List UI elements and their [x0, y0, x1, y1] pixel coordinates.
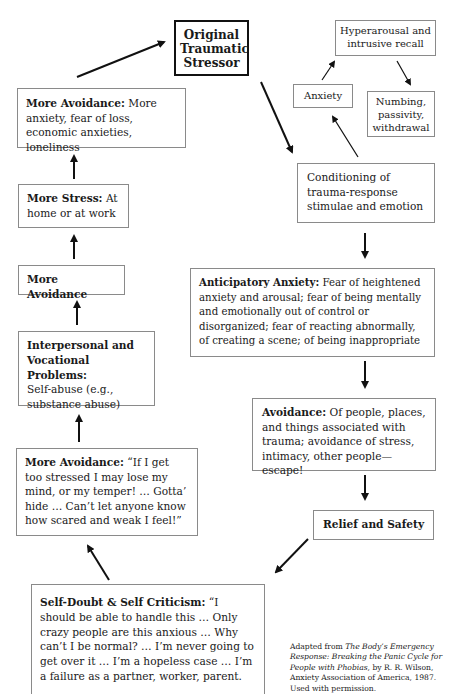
node-text: Anxiety	[304, 90, 342, 101]
citation: Adapted from The Body’s Emergency Respon…	[290, 642, 452, 694]
node-text: Relief and Safety	[323, 518, 424, 530]
node-more-avoidance-mid: More Avoidance	[18, 265, 125, 295]
arrow-hyperarousal-to-numbing	[397, 61, 410, 84]
arrow-relief-to-selfdoubt	[276, 539, 308, 572]
node-more-stress: More Stress: At home or at work	[18, 184, 129, 228]
node-conditioning: Conditioning of trauma-response stimulae…	[297, 163, 435, 223]
node-title: Anticipatory Anxiety:	[199, 276, 319, 288]
node-text: stimulae and emotion	[307, 199, 425, 214]
node-anticipatory-anxiety: Anticipatory Anxiety: Fear of heightened…	[190, 268, 435, 357]
node-text: Original	[180, 28, 243, 42]
node-text: Conditioning of	[307, 170, 425, 185]
node-more-avoidance-top: More Avoidance: More anxiety, fear of lo…	[17, 88, 186, 148]
node-self-doubt: Self-Doubt & Self Criticism: “I should b…	[31, 584, 265, 694]
node-interpersonal: Interpersonal and Vocational Problems: S…	[18, 331, 155, 406]
arrow-anxiety-to-hyperarousal	[322, 62, 334, 80]
node-title: Self-Doubt & Self Criticism:	[40, 596, 205, 608]
node-original-stressor: Original Traumatic Stressor	[174, 20, 249, 76]
node-title: More Avoidance:	[25, 456, 124, 468]
node-text: Self-abuse (e.g., substance abuse)	[27, 383, 120, 410]
node-title: More Stress:	[27, 192, 103, 204]
arrow-stressor-to-conditioning	[261, 82, 292, 152]
citation-prefix: Adapted from	[290, 642, 345, 651]
node-anxiety: Anxiety	[293, 84, 353, 108]
node-title: More Avoidance:	[26, 97, 125, 109]
node-text: passivity,	[370, 108, 432, 121]
node-text: intrusive recall	[338, 37, 433, 50]
arrow-avoidance-to-stressor	[77, 42, 164, 77]
arrow-selfdoubt-to-avoidance-quote	[88, 546, 109, 580]
node-text: Stressor	[180, 56, 243, 70]
node-text: Numbing,	[370, 95, 432, 108]
node-text: withdrawal	[370, 121, 432, 134]
node-title: Avoidance:	[262, 406, 326, 418]
node-hyperarousal: Hyperarousal and intrusive recall	[335, 20, 436, 56]
node-title: Interpersonal and Vocational Problems:	[27, 339, 134, 381]
node-text: Hyperarousal and	[338, 24, 433, 37]
node-numbing: Numbing, passivity, withdrawal	[367, 91, 435, 137]
arrow-conditioning-to-anxiety	[333, 117, 358, 157]
node-text: More Avoidance	[27, 273, 87, 300]
node-relief-safety: Relief and Safety	[313, 510, 434, 540]
node-more-avoidance-quote: More Avoidance: “If I get too stressed I…	[16, 448, 198, 536]
node-avoidance: Avoidance: Of people, places, and things…	[252, 398, 436, 471]
node-text: trauma-response	[307, 185, 425, 200]
node-text: Traumatic	[180, 42, 243, 56]
node-text: “I should be able to handle this … Only …	[40, 596, 254, 682]
